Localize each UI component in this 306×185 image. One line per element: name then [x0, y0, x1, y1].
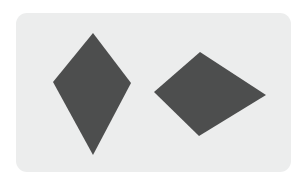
right-kite-shape [154, 52, 266, 136]
shapes-figure [0, 0, 306, 185]
left-kite-shape [53, 33, 131, 155]
shape-canvas [0, 0, 306, 185]
